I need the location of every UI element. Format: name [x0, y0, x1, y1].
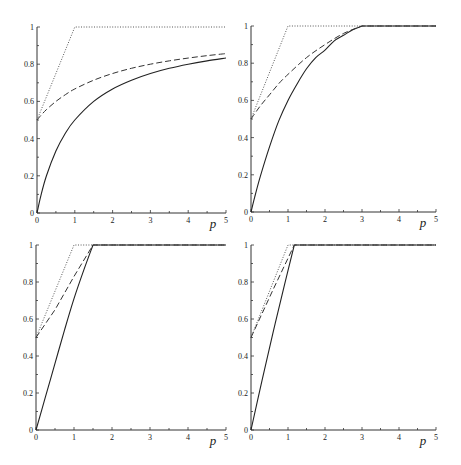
x-axis-label: p: [209, 433, 217, 448]
x-tick-label: 2: [323, 215, 327, 224]
x-axis-label: p: [419, 433, 427, 448]
x-tick-label: 2: [323, 433, 327, 442]
y-tick-label: 0: [29, 426, 33, 435]
x-tick-label: 3: [148, 216, 152, 225]
series-dotted-line: [36, 245, 226, 338]
y-tick-label: 0.2: [24, 172, 34, 181]
x-tick-label: 3: [360, 215, 364, 224]
y-tick-label: 0.4: [238, 134, 248, 143]
x-tick-label: 4: [397, 433, 401, 442]
x-tick-label: 4: [397, 215, 401, 224]
series-dashed-line: [251, 245, 436, 338]
x-tick-label: 3: [148, 433, 152, 442]
y-tick-label: 0.2: [238, 171, 248, 180]
x-tick-label: 4: [186, 433, 190, 442]
y-tick-label: 0: [244, 208, 248, 217]
x-tick-label: 1: [286, 215, 290, 224]
y-tick-label: 0.6: [238, 96, 248, 105]
panel-top-right: 01234500.20.40.60.81p: [238, 22, 438, 230]
y-tick-label: 0.2: [23, 389, 33, 398]
y-tick-label: 0.6: [238, 315, 248, 324]
x-tick-label: 1: [72, 433, 76, 442]
x-tick-label: 5: [224, 216, 228, 225]
series-dashed-line: [36, 245, 226, 338]
x-tick-label: 5: [434, 215, 438, 224]
series-dotted-line: [251, 245, 436, 338]
x-tick-label: 0: [34, 433, 38, 442]
y-tick-label: 0.8: [24, 60, 34, 69]
y-tick-label: 0.4: [23, 352, 33, 361]
series-dotted-line: [37, 27, 226, 120]
y-tick-label: 0.8: [238, 59, 248, 68]
x-tick-label: 5: [434, 433, 438, 442]
x-tick-label: 0: [249, 215, 253, 224]
x-tick-label: 4: [186, 216, 190, 225]
panel-top-left: 01234500.20.40.60.81p: [24, 23, 228, 231]
panel-bottom-right: 01234500.20.40.60.81p: [238, 241, 438, 448]
series-solid-line: [251, 245, 436, 430]
y-tick-label: 1: [244, 22, 248, 31]
x-tick-label: 2: [111, 216, 115, 225]
y-tick-label: 0.2: [238, 389, 248, 398]
y-tick-label: 0: [30, 209, 34, 218]
panel-bottom-left: 01234500.20.40.60.81p: [23, 241, 228, 448]
x-tick-label: 3: [360, 433, 364, 442]
x-tick-label: 1: [73, 216, 77, 225]
series-solid-line: [36, 245, 226, 430]
y-tick-label: 1: [30, 23, 34, 32]
x-axis-label: p: [419, 215, 427, 230]
series-dashed-line: [37, 54, 226, 120]
y-tick-label: 0: [244, 426, 248, 435]
x-tick-label: 2: [110, 433, 114, 442]
x-tick-label: 0: [35, 216, 39, 225]
y-tick-label: 1: [29, 241, 33, 250]
y-tick-label: 0.4: [24, 135, 34, 144]
y-tick-label: 0.4: [238, 352, 248, 361]
y-tick-label: 0.6: [23, 315, 33, 324]
y-tick-label: 0.8: [23, 278, 33, 287]
x-axis-label: p: [209, 216, 217, 231]
series-solid-line: [251, 26, 436, 212]
series-dashed-line: [251, 26, 436, 119]
chart-grid: 01234500.20.40.60.81p 01234500.20.40.60.…: [0, 0, 461, 465]
series-dotted-line: [251, 26, 436, 119]
x-tick-label: 0: [249, 433, 253, 442]
y-tick-label: 0.6: [24, 97, 34, 106]
x-tick-label: 1: [286, 433, 290, 442]
y-tick-label: 0.8: [238, 278, 248, 287]
x-tick-label: 5: [224, 433, 228, 442]
series-solid-line: [37, 58, 226, 213]
y-tick-label: 1: [244, 241, 248, 250]
